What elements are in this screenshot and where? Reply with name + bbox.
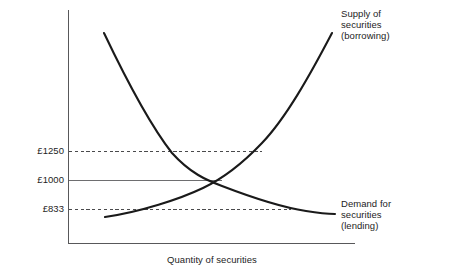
chart-axes [69,10,356,244]
supply-curve-label-line3: (borrowing) [341,30,390,41]
supply-curve [105,33,332,217]
demand-curve-label: Demand for securities (lending) [341,198,391,232]
demand-curve [104,33,335,214]
supply-curve-label: Supply of securities (borrowing) [341,8,390,42]
y-tick-label-1000: £1000 [20,174,64,185]
demand-curve-label-line2: securities [341,209,391,220]
securities-supply-demand-figure: Price of securities Quantity of securiti… [0,0,454,272]
supply-curve-label-line2: securities [341,19,390,30]
supply-curve-label-line1: Supply of [341,8,390,19]
demand-curve-label-line3: (lending) [341,220,391,231]
y-tick-label-833: £833 [20,203,64,214]
y-tick-label-1250: £1250 [20,145,64,156]
demand-curve-label-line1: Demand for [341,198,391,209]
x-axis-label: Quantity of securities [68,254,356,265]
